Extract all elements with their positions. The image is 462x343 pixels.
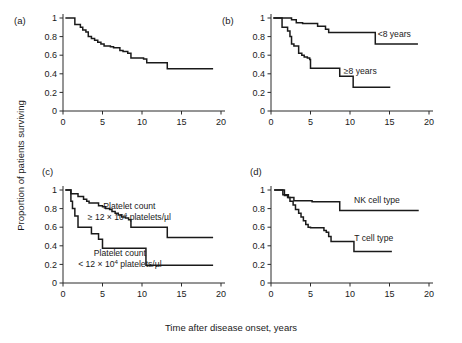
y-tick-label: 1	[52, 185, 57, 195]
y-tick-label: 0.6	[44, 222, 57, 232]
x-tick-label: 5	[308, 289, 313, 299]
y-tick-label: 0.6	[252, 50, 265, 60]
y-tick-label: 0.4	[44, 69, 57, 79]
x-tick-label: 5	[308, 117, 313, 127]
panel-c: (c)00.20.40.60.8105101520Platelet count≥…	[42, 166, 226, 299]
y-tick-label: 0.4	[252, 241, 265, 251]
survival-curves-svg: (a)00.20.40.60.8105101520(b)00.20.40.60.…	[0, 0, 462, 343]
y-tick-label: 0.2	[44, 88, 57, 98]
x-tick-label: 0	[268, 117, 273, 127]
panel-label: (d)	[250, 166, 262, 177]
x-tick-label: 15	[384, 289, 394, 299]
panel-label: (c)	[42, 166, 53, 177]
x-tick-label: 0	[268, 289, 273, 299]
survival-curve	[65, 18, 213, 69]
panel-b: (b)00.20.40.60.8105101520<8 years≥8 year…	[222, 13, 434, 127]
panel-a: (a)00.20.40.60.8105101520	[14, 13, 226, 127]
x-tick-label: 10	[137, 117, 147, 127]
survival-curve	[273, 18, 390, 87]
x-tick-label: 15	[176, 117, 186, 127]
x-tick-label: 10	[137, 289, 147, 299]
x-tick-label: 20	[216, 289, 226, 299]
curve-label: <8 years	[378, 29, 411, 39]
curve-label: T cell type	[354, 233, 393, 243]
x-tick-label: 15	[384, 117, 394, 127]
y-tick-label: 0.8	[252, 204, 265, 214]
curve-label-line1: Platelet count	[103, 201, 156, 211]
y-tick-label: 0.2	[252, 88, 265, 98]
x-tick-label: 5	[100, 117, 105, 127]
x-tick-label: 0	[60, 289, 65, 299]
y-tick-label: 1	[260, 185, 265, 195]
y-tick-label: 0.6	[44, 50, 57, 60]
y-tick-label: 1	[52, 13, 57, 23]
y-tick-label: 0.8	[44, 32, 57, 42]
curve-label-line2: < 12 × 104 platelets/µl	[78, 258, 162, 269]
axis-lines	[63, 14, 225, 111]
y-tick-label: 0	[260, 278, 265, 288]
figure-panel-group: Proportion of patients surviving (a)00.2…	[0, 0, 462, 343]
y-tick-label: 0	[52, 278, 57, 288]
curve-label: NK cell type	[354, 195, 400, 205]
y-tick-label: 0.8	[252, 32, 265, 42]
curve-label-line1: Platelet count	[94, 248, 147, 258]
y-tick-label: 0.2	[44, 260, 57, 270]
x-tick-label: 20	[216, 117, 226, 127]
x-tick-label: 10	[345, 289, 355, 299]
y-tick-label: 0.8	[44, 204, 57, 214]
x-tick-label: 20	[424, 289, 434, 299]
y-tick-label: 0.4	[44, 241, 57, 251]
panel-label: (b)	[222, 15, 234, 26]
panel-label: (a)	[14, 15, 26, 26]
x-tick-label: 10	[345, 117, 355, 127]
curve-label: ≥8 years	[344, 66, 377, 76]
panel-d: (d)00.20.40.60.8105101520NK cell typeT c…	[250, 166, 434, 299]
x-tick-label: 20	[424, 117, 434, 127]
y-tick-label: 0.2	[252, 260, 265, 270]
x-axis-label: Time after disease onset, years	[0, 322, 462, 333]
y-tick-label: 0	[52, 106, 57, 116]
y-tick-label: 0	[260, 106, 265, 116]
x-tick-label: 15	[176, 289, 186, 299]
x-tick-label: 5	[100, 289, 105, 299]
y-tick-label: 1	[260, 13, 265, 23]
y-tick-label: 0.4	[252, 69, 265, 79]
curve-label-line2: ≥ 12 × 104 platelets/µl	[88, 211, 171, 222]
y-tick-label: 0.6	[252, 222, 265, 232]
x-tick-label: 0	[60, 117, 65, 127]
